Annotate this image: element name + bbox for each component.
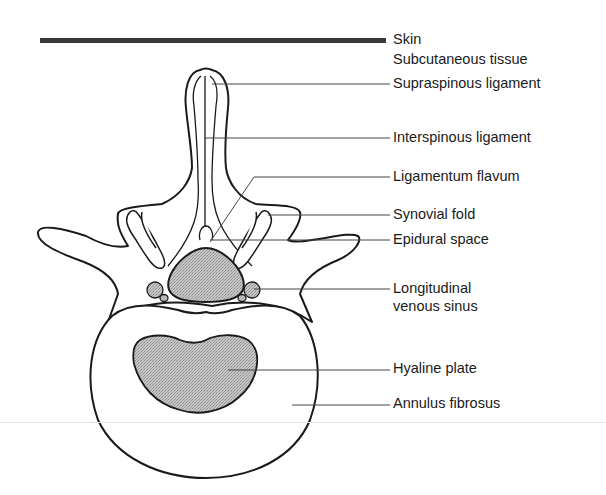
- skin-band: [40, 38, 386, 43]
- label-synovial-fold: Synovial fold: [393, 206, 475, 223]
- label-annulus-fibrosus: Annulus fibrosus: [393, 395, 500, 412]
- label-subcutaneous-tissue: Subcutaneous tissue: [393, 51, 528, 68]
- label-skin: Skin: [393, 31, 421, 48]
- label-epidural-space: Epidural space: [393, 231, 489, 248]
- label-supraspinous-ligament: Supraspinous ligament: [393, 75, 541, 92]
- label-interspinous-ligament: Interspinous ligament: [393, 129, 531, 146]
- scan-artifact-line: [0, 422, 606, 423]
- label-hyaline-plate: Hyaline plate: [393, 360, 477, 377]
- label-ligamentum-flavum: Ligamentum flavum: [393, 168, 520, 185]
- label-longitudinal-venous-sinus-2: venous sinus: [393, 298, 478, 315]
- label-longitudinal-venous-sinus-1: Longitudinal: [393, 280, 471, 297]
